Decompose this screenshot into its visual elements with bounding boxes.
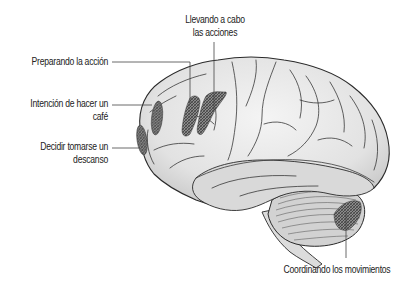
brain-diagram: Llevando a cabo las acciones Preparando …	[0, 0, 415, 295]
label-preparando: Preparando la acción	[19, 55, 108, 68]
label-coordinando-line1: Coordinando los movimientos	[276, 263, 399, 276]
label-llevando: Llevando a cabo las acciones	[170, 13, 260, 39]
label-decidir: Decidir tomarse un descanso	[19, 140, 108, 166]
label-coordinando: Coordinando los movimientos	[276, 263, 399, 276]
label-preparando-line1: Preparando la acción	[19, 55, 108, 68]
label-llevando-line1: Llevando a cabo	[170, 13, 260, 26]
label-intencion-line2: café	[19, 110, 108, 123]
label-intencion-line1: Intención de hacer un	[19, 97, 108, 110]
label-decidir-line2: descanso	[19, 153, 108, 166]
label-llevando-line2: las acciones	[170, 26, 260, 39]
label-intencion: Intención de hacer un café	[19, 97, 108, 123]
label-decidir-line1: Decidir tomarse un	[19, 140, 108, 153]
